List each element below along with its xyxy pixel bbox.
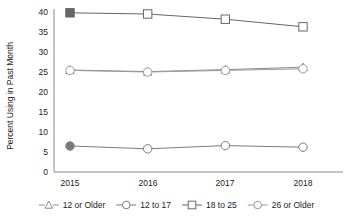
data-point	[299, 143, 307, 151]
triangle-open-icon	[45, 201, 53, 208]
y-tick-label: 40	[39, 7, 49, 17]
line-chart: Percent Using in Past Month 40 35 30 25 …	[0, 0, 345, 217]
legend-item-12-to-17[interactable]: 12 to 17	[116, 200, 171, 210]
circle-open-icon	[254, 201, 262, 209]
data-point	[66, 142, 74, 150]
data-point	[66, 9, 74, 17]
data-point	[143, 10, 151, 18]
data-point	[66, 66, 74, 74]
y-tick-label: 30	[39, 47, 49, 57]
legend-label: 12 or Older	[63, 200, 106, 210]
y-tick-label: 25	[39, 67, 49, 77]
data-point	[221, 66, 229, 74]
x-axis-tick-labels: 2015 2016 2017 2018	[61, 178, 313, 188]
series-line	[70, 13, 303, 27]
legend-label: 12 to 17	[140, 200, 171, 210]
chart-legend: 12 or Older12 to 1718 to 2526 or Older	[39, 200, 315, 210]
x-tick-label: 2015	[61, 178, 80, 188]
series-18-to-25	[66, 9, 307, 31]
circle-open-icon	[122, 201, 130, 209]
series-12-to-17	[66, 141, 307, 153]
data-point	[299, 23, 307, 31]
legend-item-12-or-older[interactable]: 12 or Older	[39, 200, 106, 210]
chart-canvas: Percent Using in Past Month 40 35 30 25 …	[0, 0, 345, 217]
y-tick-label: 35	[39, 27, 49, 37]
y-tick-label: 15	[39, 107, 49, 117]
x-tick-label: 2016	[139, 178, 158, 188]
legend-label: 26 or Older	[272, 200, 315, 210]
legend-label: 18 to 25	[206, 200, 237, 210]
series-line	[70, 146, 303, 149]
legend-item-18-to-25[interactable]: 18 to 25	[182, 200, 237, 210]
data-point	[221, 15, 229, 23]
y-axis-tick-labels: 40 35 30 25 20 15 10 5 0	[39, 7, 49, 177]
legend-item-26-or-older[interactable]: 26 or Older	[248, 200, 315, 210]
x-tick-label: 2017	[216, 178, 235, 188]
y-tick-label: 10	[39, 127, 49, 137]
series-layer	[66, 9, 307, 153]
square-open-icon	[188, 201, 196, 209]
data-point	[143, 68, 151, 76]
data-point	[299, 65, 307, 73]
y-tick-label: 5	[43, 147, 48, 157]
x-tick-label: 2018	[294, 178, 313, 188]
y-tick-label: 20	[39, 87, 49, 97]
data-point	[221, 141, 229, 149]
y-axis-title: Percent Using in Past Month	[5, 42, 15, 150]
y-tick-label: 0	[43, 167, 48, 177]
data-point	[143, 145, 151, 153]
